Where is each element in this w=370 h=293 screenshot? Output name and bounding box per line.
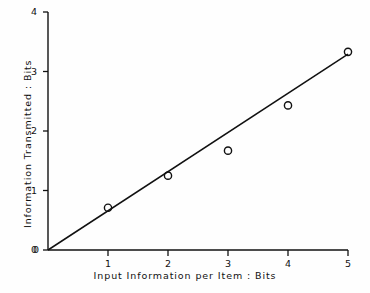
x-axis-title: Input Information per Item : Bits (0, 270, 370, 281)
x-tick-label: 4 (281, 258, 295, 269)
y-axis-title-wrap: Information Transmitted : Bits (0, 0, 30, 260)
x-tick-label: 3 (221, 258, 235, 269)
data-point (284, 102, 291, 109)
chart-figure: 01234 012345 Information Transmitted : B… (0, 0, 370, 293)
x-tick-label: 0 (29, 244, 43, 255)
x-tick-label: 1 (101, 258, 115, 269)
x-tick-label: 2 (161, 258, 175, 269)
x-axis-ticks (108, 250, 348, 256)
data-point (224, 147, 231, 154)
x-tick-label: 5 (341, 258, 355, 269)
fitted-line (48, 54, 348, 250)
data-point-markers (104, 48, 351, 211)
y-axis-ticks (43, 12, 48, 250)
fit-line-segment (48, 54, 348, 250)
y-axis-title: Information Transmitted : Bits (22, 60, 33, 228)
chart-plot-area (0, 0, 370, 293)
data-point (164, 172, 171, 179)
